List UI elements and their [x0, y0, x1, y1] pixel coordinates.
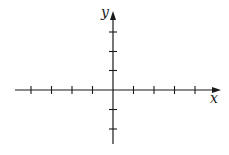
y-axis-arrow-icon	[110, 11, 116, 20]
x-axis-label: x	[210, 91, 218, 105]
axes-svg	[0, 0, 229, 155]
y-axis-label: y	[101, 5, 109, 19]
